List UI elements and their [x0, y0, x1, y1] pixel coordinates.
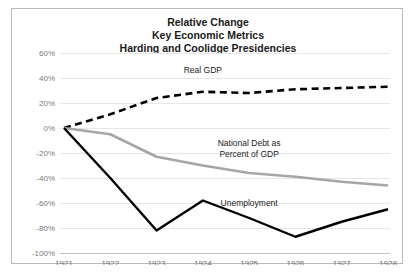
x-tick-1927: 1927: [333, 259, 351, 265]
series-label-unemployment: Unemployment: [221, 198, 279, 208]
y-tick--40%: -40%: [36, 174, 55, 183]
x-tick-1926: 1926: [287, 259, 305, 265]
y-tick-0%: 0%: [43, 124, 55, 133]
y-tick--20%: -20%: [36, 149, 55, 158]
series-label-national-debt-line-2: Percent of GDP: [219, 149, 279, 159]
data-series: [64, 87, 388, 237]
series-line-real-gdp: [64, 87, 388, 128]
x-axis-tick-labels: 19211922192319241925192619271928: [55, 259, 397, 265]
economic-metrics-line-chart: Relative Change Key Economic Metrics Har…: [12, 9, 404, 265]
y-tick--100%: -100%: [32, 249, 55, 258]
y-tick--80%: -80%: [36, 224, 55, 233]
x-tick-1925: 1925: [240, 259, 258, 265]
x-tick-1923: 1923: [148, 259, 166, 265]
y-tick-40%: 40%: [39, 74, 55, 83]
x-tick-1921: 1921: [55, 259, 73, 265]
y-tick-60%: 60%: [39, 49, 55, 58]
chart-title-line-1: Relative Change: [167, 16, 249, 28]
x-tick-1924: 1924: [194, 259, 212, 265]
chart-title-line-3: Harding and Coolidge Presidencies: [120, 42, 297, 54]
y-tick--60%: -60%: [36, 199, 55, 208]
y-axis-tick-labels: 60%40%20%0%-20%-40%-60%-80%-100%: [32, 49, 55, 258]
chart-title: Relative Change Key Economic Metrics Har…: [120, 16, 297, 54]
chart-title-line-2: Key Economic Metrics: [152, 29, 264, 41]
series-label-real-gdp: Real GDP: [184, 65, 223, 75]
series-annotations: Real GDP National Debt as Percent of GDP…: [184, 65, 281, 208]
chart-frame: Relative Change Key Economic Metrics Har…: [11, 8, 403, 264]
series-label-national-debt-line-1: National Debt as: [218, 138, 281, 148]
x-tick-1928: 1928: [379, 259, 397, 265]
y-tick-20%: 20%: [39, 99, 55, 108]
x-tick-1922: 1922: [101, 259, 119, 265]
